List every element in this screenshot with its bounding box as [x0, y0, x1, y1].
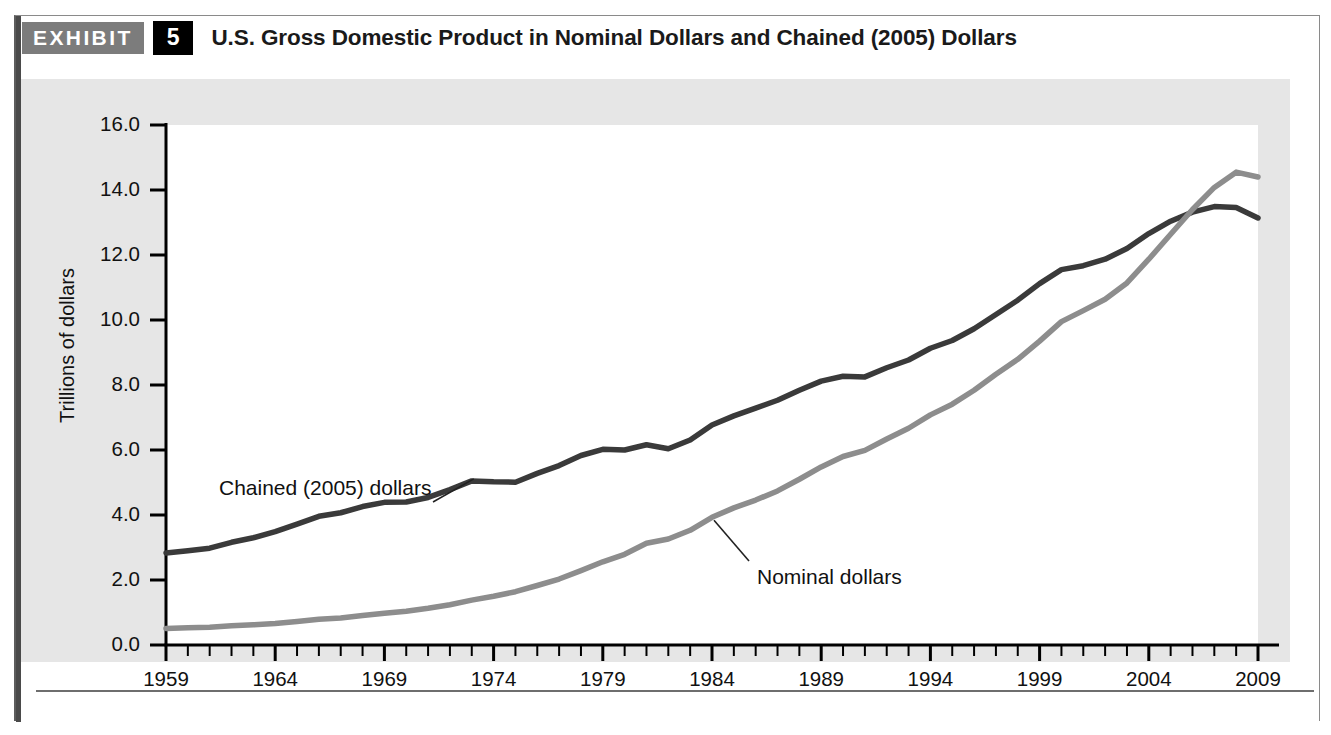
series-line-nominal	[166, 172, 1258, 628]
annotation-leader-chained	[433, 479, 474, 502]
x-axis-tick-label: 1964	[230, 667, 320, 691]
annotation-label-nominal: Nominal dollars	[757, 565, 902, 589]
y-axis-tick-label: 14.0	[66, 177, 140, 201]
x-axis-tick-label: 1999	[995, 667, 1085, 691]
y-axis-tick-label: 6.0	[66, 437, 140, 461]
series-line-chained	[166, 207, 1258, 553]
chart-panel: Trillions of dollars 0.02.04.06.08.010.0…	[21, 79, 1290, 662]
chart-svg	[21, 79, 1290, 662]
exhibit-header: EXHIBIT 5 U.S. Gross Domestic Product in…	[22, 21, 1017, 55]
annotation-label-chained: Chained (2005) dollars	[219, 476, 431, 500]
y-axis-tick-label: 0.0	[66, 632, 140, 656]
x-axis-tick-label: 1959	[121, 667, 211, 691]
x-axis-tick-label: 1989	[776, 667, 866, 691]
y-axis-tick-label: 16.0	[66, 112, 140, 136]
y-axis-tick-label: 12.0	[66, 242, 140, 266]
y-axis-tick-label: 8.0	[66, 372, 140, 396]
y-axis-tick-label: 2.0	[66, 567, 140, 591]
source-note-divider	[36, 690, 1314, 692]
annotation-leader-nominal	[714, 520, 749, 561]
x-axis-tick-label: 2009	[1213, 667, 1303, 691]
y-axis-tick-label: 4.0	[66, 502, 140, 526]
exhibit-number-badge: 5	[153, 21, 194, 55]
x-axis-tick-label: 1979	[558, 667, 648, 691]
exhibit-badge: EXHIBIT	[22, 22, 144, 54]
x-axis-tick-label: 1994	[885, 667, 975, 691]
x-axis-tick-label: 1984	[667, 667, 757, 691]
y-axis-tick-label: 10.0	[66, 307, 140, 331]
x-axis-tick-label: 1969	[339, 667, 429, 691]
x-axis-tick-label: 1974	[449, 667, 539, 691]
exhibit-title: U.S. Gross Domestic Product in Nominal D…	[211, 25, 1016, 51]
x-axis-tick-label: 2004	[1104, 667, 1194, 691]
